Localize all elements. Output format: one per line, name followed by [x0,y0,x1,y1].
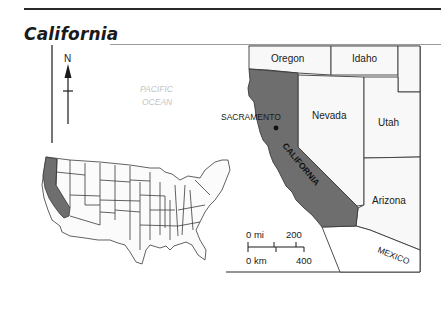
ocean-label-line1: PACIFIC [140,84,174,94]
us-locator-map [42,157,230,264]
arizona-label: Arizona [372,195,406,206]
oregon-label: Oregon [271,53,304,64]
state-wyoming [398,46,420,92]
scale-mi-value: 200 [286,229,302,240]
scale-bar [248,242,304,252]
scale-mi-label: 0 mi [246,229,264,240]
capital-marker-icon [274,126,279,131]
scale-km-label: 0 km [246,255,267,266]
utah-label: Utah [378,117,399,128]
north-arrow-icon [63,64,73,124]
scale-km-value: 400 [296,255,312,266]
regional-map: SACRAMENTO CALIFORNIA Oregon Idaho Nevad… [221,46,420,272]
ocean-label-line2: OCEAN [142,97,173,107]
capital-label: SACRAMENTO [221,112,281,122]
map-figure: N PACIFIC OCEAN SACRAMENTO CALIFORNIA Or… [0,0,441,327]
nevada-label: Nevada [312,110,347,121]
compass-label: N [64,53,71,64]
idaho-label: Idaho [352,53,377,64]
